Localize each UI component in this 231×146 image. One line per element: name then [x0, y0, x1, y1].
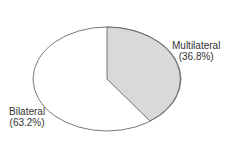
- label-multilateral-name: Multilateral: [172, 40, 220, 51]
- label-multilateral-pct: (36.8%): [172, 51, 220, 62]
- label-bilateral: Bilateral (63.2%): [9, 106, 45, 128]
- label-multilateral: Multilateral (36.8%): [172, 40, 220, 62]
- label-bilateral-name: Bilateral: [9, 106, 45, 117]
- label-bilateral-pct: (63.2%): [9, 117, 45, 128]
